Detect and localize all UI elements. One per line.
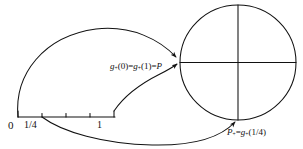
label-g-map: g+(0)=g+(1)=P xyxy=(110,62,162,72)
label-p-plus: P+=g+(1/4) xyxy=(227,128,266,138)
point-p-label: P xyxy=(156,61,162,71)
tick-label-0: 0 xyxy=(8,120,14,131)
g-arg-zero: (0)= xyxy=(118,61,134,71)
lower-loop-arrow xyxy=(42,117,235,145)
g-arg-one: (1)= xyxy=(141,61,157,71)
tick-label-one: 1 xyxy=(97,120,102,130)
g-arg-quarter: (1/4) xyxy=(248,127,266,137)
tick-label-quarter: 1/4 xyxy=(24,120,37,130)
upper-loop-arrow xyxy=(18,28,176,117)
